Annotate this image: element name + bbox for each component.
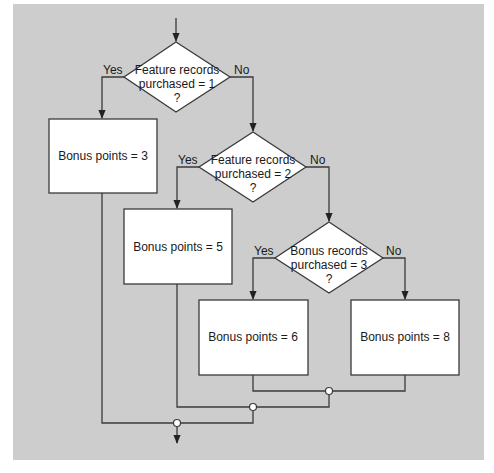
junction-1	[326, 388, 333, 395]
decision-1-line-3: ?	[174, 91, 181, 105]
junction-2	[250, 404, 257, 411]
decision-3-line-3: ?	[326, 272, 333, 286]
decision-1-no-label: No	[234, 63, 250, 77]
decision-2-line-2: purchased = 2	[215, 167, 292, 181]
decision-2-no-label: No	[310, 153, 326, 167]
decision-2-yes-label: Yes	[178, 153, 198, 167]
decision-1-line-2: purchased = 1	[139, 77, 216, 91]
process-bonus-6-label: Bonus points = 6	[208, 330, 298, 344]
decision-3-yes-label: Yes	[254, 244, 274, 258]
junction-3	[174, 420, 181, 427]
decision-3-no-label: No	[386, 244, 402, 258]
decision-3-line-2: purchased = 3	[291, 258, 368, 272]
flowchart: Feature records purchased = 1 ? Feature …	[0, 0, 494, 473]
decision-1-line-1: Feature records	[135, 63, 220, 77]
process-bonus-5-label: Bonus points = 5	[133, 240, 223, 254]
process-bonus-3-label: Bonus points = 3	[58, 149, 148, 163]
decision-2-line-1: Feature records	[211, 153, 296, 167]
decision-3-line-1: Bonus records	[290, 244, 367, 258]
process-bonus-8-label: Bonus points = 8	[360, 330, 450, 344]
decision-2-line-3: ?	[250, 181, 257, 195]
decision-1-yes-label: Yes	[103, 63, 123, 77]
